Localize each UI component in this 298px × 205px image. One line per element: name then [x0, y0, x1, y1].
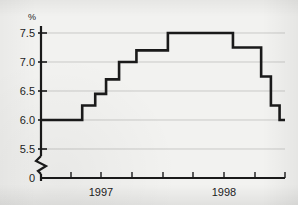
step-line-chart: 7.5 7.0 6.5 6.0 5.5 0 % 1997 1998	[0, 0, 298, 205]
y-tick-label-7-5: 7.5	[20, 27, 35, 39]
x-axis-label-1998: 1998	[212, 186, 236, 198]
x-axis-label-1997: 1997	[89, 186, 113, 198]
y-tick-label-6-0: 6.0	[20, 114, 35, 126]
y-axis-unit-label: %	[28, 12, 36, 22]
y-tick-label-7-0: 7.0	[20, 56, 35, 68]
y-axis-break-icon	[36, 156, 46, 174]
y-tick-label-5-5: 5.5	[20, 143, 35, 155]
series-step-line	[41, 33, 285, 120]
y-tick-marks	[38, 33, 47, 149]
y-tick-label-6-5: 6.5	[20, 85, 35, 97]
y-axis-zero-label: 0	[29, 172, 35, 184]
